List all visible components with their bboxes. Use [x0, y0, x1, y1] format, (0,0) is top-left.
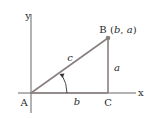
x-axis-label: x: [138, 87, 144, 98]
hypotenuse-c: [31, 38, 108, 93]
point-a-label: A: [19, 97, 28, 108]
y-axis-label: y: [24, 10, 31, 21]
side-b-label: b: [74, 96, 80, 107]
triangle-diagram: y x A C B (b, a) c a b: [0, 0, 150, 118]
side-a-label: a: [114, 62, 120, 73]
point-b-label: B: [99, 24, 106, 35]
point-b-coords: (b, a): [110, 24, 137, 35]
point-c-label: C: [104, 97, 112, 108]
angle-arc-icon: [62, 75, 67, 93]
point-b-dot: [106, 36, 111, 41]
side-c-label: c: [67, 52, 73, 63]
